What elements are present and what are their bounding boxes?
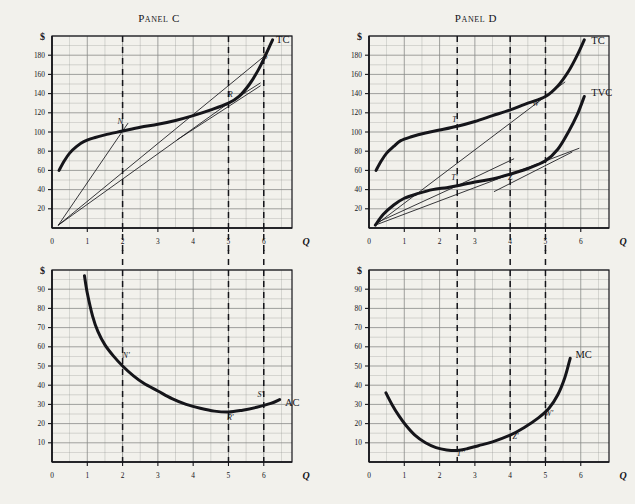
x-tick-label: 4 — [191, 237, 195, 246]
panel-c-chart: 20406080100120140160180$0123456QNRSTC — [0, 0, 318, 252]
x-tick-label: 1 — [85, 237, 89, 246]
cost-curves-figure: Panel C 20406080100120140160180$0123456Q… — [0, 0, 635, 504]
point-label: S — [264, 52, 268, 61]
y-axis-title: $ — [357, 265, 362, 276]
point-label: N — [116, 117, 123, 126]
y-tick-label: 180 — [351, 51, 362, 60]
point-label: R — [227, 90, 233, 99]
y-tick-label: 60 — [38, 166, 46, 175]
y-tick-label: 40 — [355, 381, 363, 390]
y-axis-title: $ — [40, 265, 45, 276]
y-tick-label: 90 — [38, 285, 46, 294]
x-tick-label: 2 — [121, 471, 125, 480]
x-tick-label: 0 — [367, 471, 371, 480]
y-tick-label: 40 — [38, 185, 46, 194]
panel-d-chart: 20406080100120140160180$0123456QTT'WZTCT… — [317, 0, 635, 252]
x-tick-label: 3 — [156, 471, 160, 480]
x-tick-label: 1 — [402, 237, 406, 246]
y-tick-label: 40 — [38, 381, 46, 390]
x-tick-label: 0 — [50, 471, 54, 480]
curve-name-label: TVC — [591, 87, 612, 98]
y-tick-label: 180 — [34, 51, 45, 60]
y-tick-label: 20 — [355, 204, 363, 213]
curve-AC — [84, 276, 279, 412]
y-tick-label: 30 — [355, 400, 363, 409]
x-tick-label: 6 — [262, 471, 266, 480]
x-tick-label: 0 — [50, 237, 54, 246]
x-axis-title: Q — [302, 470, 309, 481]
x-tick-label: 6 — [579, 237, 583, 246]
y-tick-label: 80 — [38, 147, 46, 156]
y-tick-label: 80 — [355, 147, 363, 156]
x-tick-label: 4 — [508, 471, 512, 480]
y-tick-label: 20 — [355, 419, 363, 428]
y-tick-label: 30 — [38, 400, 46, 409]
y-tick-label: 160 — [34, 70, 45, 79]
x-tick-label: 3 — [473, 237, 477, 246]
y-tick-label: 70 — [38, 323, 46, 332]
y-tick-label: 120 — [351, 108, 362, 117]
y-tick-label: 50 — [355, 362, 363, 371]
panel-d: Panel D 20406080100120140160180$0123456Q… — [317, 0, 635, 252]
y-tick-label: 140 — [351, 89, 362, 98]
y-tick-label: 80 — [38, 304, 46, 313]
y-tick-label: 60 — [355, 342, 363, 351]
point-label: Z — [508, 173, 513, 182]
panel-ac: 102030405060708090$0123456QN'R'S'AC — [0, 250, 318, 504]
panel-d-title: Panel D — [317, 12, 635, 24]
x-axis-title: Q — [302, 236, 309, 247]
y-tick-label: 70 — [355, 323, 363, 332]
x-tick-label: 3 — [156, 237, 160, 246]
point-label: N' — [122, 351, 130, 360]
curve-ray-to-Z — [375, 148, 579, 225]
x-tick-label: 5 — [227, 471, 231, 480]
y-tick-label: 160 — [351, 70, 362, 79]
panel-mc: 102030405060708090$0123456QT''Z'W'MC — [317, 250, 635, 504]
point-label: S' — [257, 390, 263, 399]
point-label: T' — [451, 173, 457, 182]
y-tick-label: 140 — [34, 89, 45, 98]
y-tick-label: 60 — [355, 166, 363, 175]
x-tick-label: 2 — [438, 471, 442, 480]
y-tick-label: 20 — [38, 419, 46, 428]
point-label: T'' — [457, 449, 465, 458]
panel-c-title: Panel C — [0, 12, 318, 24]
x-tick-label: 5 — [544, 471, 548, 480]
x-tick-label: 1 — [402, 471, 406, 480]
x-tick-label: 4 — [191, 471, 195, 480]
x-tick-label: 3 — [473, 471, 477, 480]
y-tick-label: 10 — [355, 438, 363, 447]
curve-name-label: TC — [591, 35, 604, 46]
curve-ray-to-R — [58, 83, 260, 225]
y-tick-label: 120 — [34, 108, 45, 117]
point-label: W' — [545, 409, 554, 418]
curve-name-label: TC — [276, 34, 289, 45]
x-tick-label: 6 — [579, 471, 583, 480]
y-tick-label: 60 — [38, 342, 46, 351]
point-label: R' — [226, 413, 234, 422]
curve-name-label: MC — [575, 349, 591, 360]
curve-name-label: AC — [285, 397, 300, 408]
y-tick-label: 100 — [351, 128, 362, 137]
curve-tangent-at-Z — [494, 152, 572, 191]
y-axis-title: $ — [40, 31, 45, 42]
y-tick-label: 20 — [38, 204, 46, 213]
y-tick-label: 40 — [355, 185, 363, 194]
y-axis-title: $ — [357, 31, 362, 42]
x-tick-label: 0 — [367, 237, 371, 246]
panel-ac-chart: 102030405060708090$0123456QN'R'S'AC — [0, 250, 318, 504]
y-tick-label: 100 — [34, 128, 45, 137]
y-tick-label: 80 — [355, 304, 363, 313]
point-label: Z' — [512, 432, 518, 441]
y-tick-label: 50 — [38, 362, 46, 371]
y-tick-label: 90 — [355, 285, 363, 294]
y-tick-label: 10 — [38, 438, 46, 447]
x-axis-title: Q — [619, 470, 626, 481]
panel-c: Panel C 20406080100120140160180$0123456Q… — [0, 0, 318, 252]
point-label: T — [452, 115, 457, 124]
panel-mc-chart: 102030405060708090$0123456QT''Z'W'MC — [317, 250, 635, 504]
x-tick-label: 2 — [438, 237, 442, 246]
x-tick-label: 1 — [85, 471, 89, 480]
x-axis-title: Q — [619, 236, 626, 247]
curve-tangent-at-T — [378, 159, 514, 222]
